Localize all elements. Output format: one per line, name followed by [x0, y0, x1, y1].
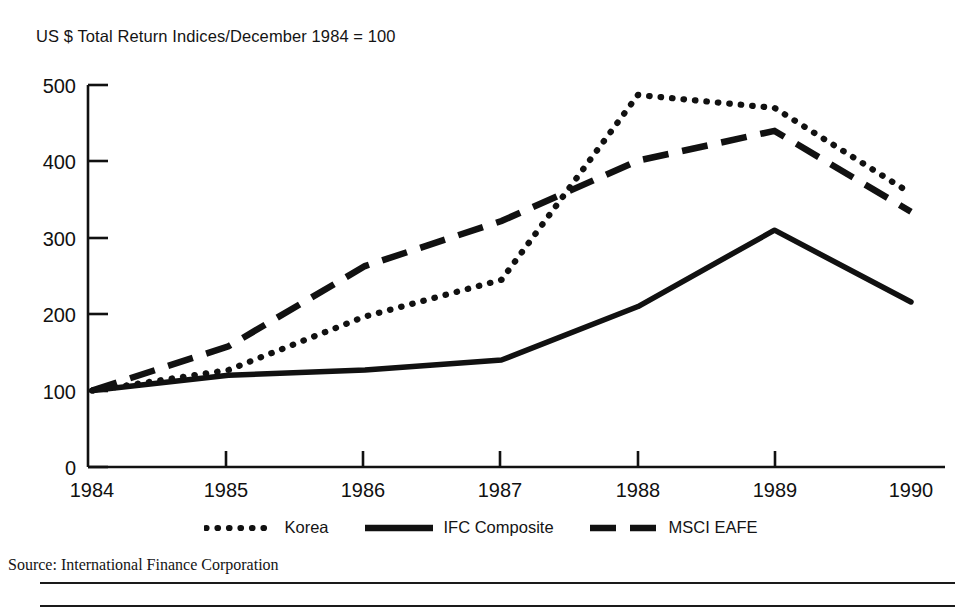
x-axis-tick-labels: 1984 1985 1986 1987 1988 1989 1990	[70, 479, 934, 501]
line-chart-plot: 500 400 300 200 100 0 1984 1985 1986 198…	[0, 0, 961, 511]
x-tick-label-1987: 1987	[478, 479, 523, 501]
chart-legend: Korea IFC Composite MSCI EAFE	[0, 518, 961, 537]
legend-swatch-solid-icon	[363, 521, 435, 535]
chart-series-group	[92, 95, 911, 391]
chart-axes	[88, 85, 945, 467]
series-line-ifc-composite	[92, 230, 911, 390]
legend-label-msci-eafe: MSCI EAFE	[669, 518, 758, 537]
x-tick-label-1990: 1990	[889, 479, 934, 501]
y-tick-label-500: 500	[43, 75, 76, 97]
legend-label-korea: Korea	[285, 518, 329, 537]
legend-item-msci-eafe: MSCI EAFE	[588, 518, 758, 537]
figure-container: US $ Total Return Indices/December 1984 …	[0, 0, 961, 611]
legend-item-ifc-composite: IFC Composite	[363, 518, 554, 537]
y-tick-label-300: 300	[43, 228, 76, 250]
source-note: Source: International Finance Corporatio…	[8, 556, 279, 574]
x-tick-label-1984: 1984	[70, 479, 115, 501]
y-axis-ticks	[88, 85, 108, 467]
x-axis-ticks	[226, 451, 775, 467]
y-tick-label-400: 400	[43, 151, 76, 173]
x-tick-label-1986: 1986	[341, 479, 386, 501]
legend-swatch-dashed-icon	[588, 521, 660, 535]
x-tick-label-1988: 1988	[616, 479, 661, 501]
horizontal-rule-top	[40, 582, 955, 584]
x-tick-label-1985: 1985	[204, 479, 249, 501]
series-line-korea	[92, 95, 911, 391]
x-tick-label-1989: 1989	[753, 479, 798, 501]
legend-item-korea: Korea	[204, 518, 329, 537]
series-line-msci-eafe	[92, 131, 911, 391]
y-tick-label-100: 100	[43, 381, 76, 403]
horizontal-rule-bottom	[40, 605, 955, 607]
y-tick-label-200: 200	[43, 304, 76, 326]
legend-swatch-dotted-icon	[204, 521, 276, 535]
legend-label-ifc-composite: IFC Composite	[444, 518, 554, 537]
y-axis-tick-labels: 500 400 300 200 100 0	[43, 75, 76, 479]
y-tick-label-0: 0	[65, 457, 76, 479]
